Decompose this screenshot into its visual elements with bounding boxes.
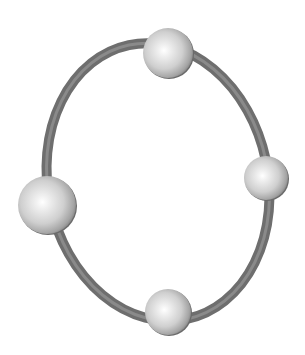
ring-diagram <box>0 0 305 355</box>
node-left-sphere <box>18 176 76 234</box>
node-right-sphere <box>244 156 288 200</box>
nodes <box>18 28 289 336</box>
node-bottom-sphere <box>145 289 191 335</box>
ring-diagram-svg <box>0 0 305 355</box>
node-top-sphere <box>143 28 193 78</box>
